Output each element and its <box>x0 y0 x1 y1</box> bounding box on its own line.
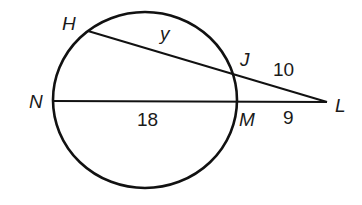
segment-label-y: y <box>158 23 171 44</box>
circle-secants-diagram: H y J 10 N 18 M 9 L <box>0 0 362 205</box>
segment-label-18: 18 <box>137 109 158 130</box>
diagram-canvas: H y J 10 N 18 M 9 L <box>0 0 362 205</box>
point-label-N: N <box>29 91 43 112</box>
point-label-M: M <box>239 109 255 130</box>
point-label-J: J <box>239 49 250 70</box>
circle <box>53 12 237 188</box>
point-label-L: L <box>335 95 346 116</box>
segment-label-9: 9 <box>283 107 294 128</box>
point-label-H: H <box>62 13 76 34</box>
segment-label-10: 10 <box>273 59 294 80</box>
secant-NL <box>53 101 327 102</box>
